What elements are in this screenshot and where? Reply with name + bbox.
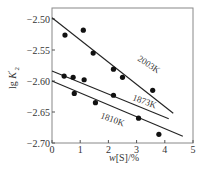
svg-text:1810K: 1810K (99, 110, 126, 128)
svg-text:−2.50: −2.50 (27, 14, 50, 25)
svg-text:lg K′2: lg K′2 (6, 67, 21, 89)
svg-text:−2.65: −2.65 (27, 107, 50, 118)
svg-text:1: 1 (78, 144, 83, 155)
svg-text:2003K: 2003K (136, 53, 162, 75)
svg-text:5: 5 (191, 144, 196, 155)
svg-text:4: 4 (162, 144, 167, 155)
svg-text:−2.55: −2.55 (27, 45, 50, 56)
svg-text:−2.60: −2.60 (27, 76, 50, 87)
svg-text:0: 0 (50, 144, 55, 155)
chart: 012345−2.50−2.55−2.60−2.65−2.70 2003K187… (0, 0, 198, 187)
x-axis-title: w[S]/% (109, 152, 139, 163)
svg-text:−2.70: −2.70 (27, 138, 50, 149)
svg-text:1873K: 1873K (131, 92, 158, 110)
y-axis-title: lg K′2 (6, 67, 21, 89)
